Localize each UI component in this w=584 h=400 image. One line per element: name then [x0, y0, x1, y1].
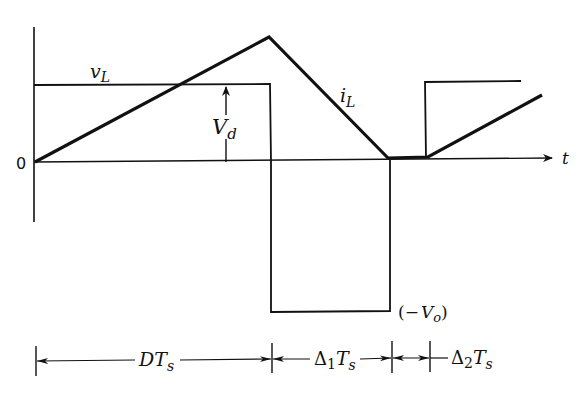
dts-label: DTs	[138, 348, 174, 374]
d2-label: Δ2Ts	[451, 346, 493, 372]
time-axis-label: t	[562, 148, 569, 168]
il-waveform	[35, 37, 542, 162]
d1-dim-right	[360, 358, 391, 359]
time-axis	[34, 158, 552, 162]
dts-dim-right	[180, 359, 271, 360]
vo-label: (−Vo)	[398, 302, 448, 325]
dts-dim-left	[37, 360, 135, 361]
vd-label: Vd	[212, 115, 237, 143]
vl-waveform-next-period	[425, 81, 521, 158]
svg-text:Δ1Ts: Δ1Ts	[314, 347, 356, 373]
svg-text:Δ2Ts: Δ2Ts	[451, 346, 493, 372]
svg-text:DTs: DTs	[138, 348, 174, 374]
origin-label: 0	[16, 154, 26, 173]
waveform-diagram: t 0 vL iL Vd (−Vo) DTs Δ1Ts Δ2Ts	[0, 0, 584, 400]
svg-text:(−Vo): (−Vo)	[398, 302, 448, 325]
il-label: iL	[340, 84, 355, 110]
svg-text:Vd: Vd	[212, 115, 237, 143]
svg-text:iL: iL	[340, 84, 355, 110]
vl-label: vL	[90, 60, 110, 85]
svg-text:vL: vL	[90, 60, 110, 85]
d1-label: Δ1Ts	[314, 347, 356, 373]
